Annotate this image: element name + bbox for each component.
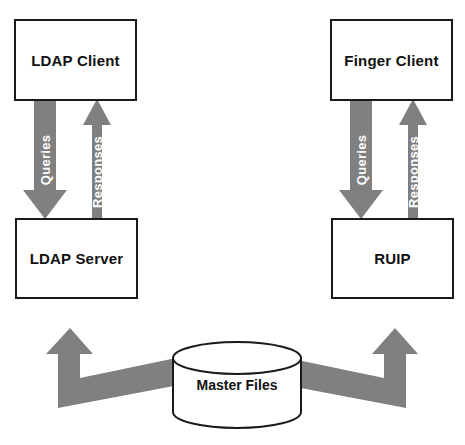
node-finger-client[interactable]: Finger Client [330, 19, 453, 101]
node-ldap-server[interactable]: LDAP Server [15, 218, 138, 299]
diagram-canvas: LDAP Client LDAP Server Finger Client RU… [0, 0, 465, 445]
node-ldap-client-label: LDAP Client [31, 52, 120, 69]
arrow-master-to-ruip [285, 328, 418, 408]
node-ldap-client[interactable]: LDAP Client [14, 19, 137, 101]
arrow-master-to-ldap-server [46, 328, 179, 408]
node-ldap-server-label: LDAP Server [30, 250, 124, 267]
arrow-finger-queries [339, 100, 383, 219]
node-ruip[interactable]: RUIP [331, 218, 454, 299]
arrow-finger-responses [399, 99, 427, 219]
arrow-ldap-responses [83, 99, 111, 219]
node-ruip-label: RUIP [374, 250, 411, 267]
arrow-ldap-queries [23, 100, 67, 219]
node-master-files-label: Master Files [197, 377, 278, 393]
node-finger-client-label: Finger Client [344, 52, 438, 69]
